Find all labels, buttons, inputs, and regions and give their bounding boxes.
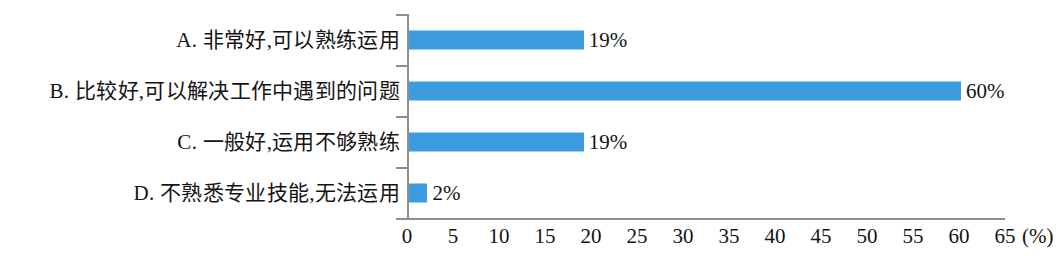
x-axis-tick-label: 0 (402, 226, 413, 247)
x-axis-tick-label: 25 (627, 226, 648, 247)
bar-value-d: 2% (432, 182, 460, 203)
x-axis-tick-label: 50 (857, 226, 878, 247)
x-axis-tick-label: 55 (903, 226, 924, 247)
x-axis-tick-label: 40 (765, 226, 786, 247)
y-axis-tick (396, 218, 407, 220)
bar-row-c: C. 一般好,运用不够熟练 19% (0, 116, 1062, 167)
bar-row-a: A. 非常好,可以熟练运用 19% (0, 14, 1062, 65)
x-axis-tick-label: 45 (811, 226, 832, 247)
bar-value-a: 19% (589, 29, 628, 50)
x-axis-tick-label: 10 (489, 226, 510, 247)
category-label-b: B. 比较好,可以解决工作中遇到的问题 (50, 80, 400, 101)
horizontal-bar-chart: A. 非常好,可以熟练运用 19% B. 比较好,可以解决工作中遇到的问题 60… (0, 0, 1062, 256)
bar-group-a: 19% (409, 30, 627, 49)
x-axis-tick-label: 15 (535, 226, 556, 247)
category-label-c: C. 一般好,运用不够熟练 (177, 131, 400, 152)
bar-b (409, 81, 961, 100)
bar-a (409, 30, 584, 49)
x-axis-line (407, 218, 1005, 220)
bar-value-c: 19% (589, 131, 628, 152)
bar-group-d: 2% (409, 183, 460, 202)
category-label-d: D. 不熟悉专业技能,无法运用 (134, 182, 400, 203)
category-label-a: A. 非常好,可以熟练运用 (176, 29, 400, 50)
x-axis-tick-label: 60 (949, 226, 970, 247)
x-axis-tick-label: 35 (719, 226, 740, 247)
x-axis-tick-label: 30 (673, 226, 694, 247)
x-axis-tick-label: 5 (448, 226, 459, 247)
x-axis-tick-label: 65 (995, 226, 1016, 247)
bar-group-b: 60% (409, 81, 1005, 100)
bar-c (409, 132, 584, 151)
bar-row-b: B. 比较好,可以解决工作中遇到的问题 60% (0, 65, 1062, 116)
bar-d (409, 183, 427, 202)
bar-group-c: 19% (409, 132, 627, 151)
x-axis-unit-label: (%) (1022, 226, 1053, 247)
bar-value-b: 60% (966, 80, 1005, 101)
x-axis-tick-label: 20 (581, 226, 602, 247)
bar-row-d: D. 不熟悉专业技能,无法运用 2% (0, 167, 1062, 218)
